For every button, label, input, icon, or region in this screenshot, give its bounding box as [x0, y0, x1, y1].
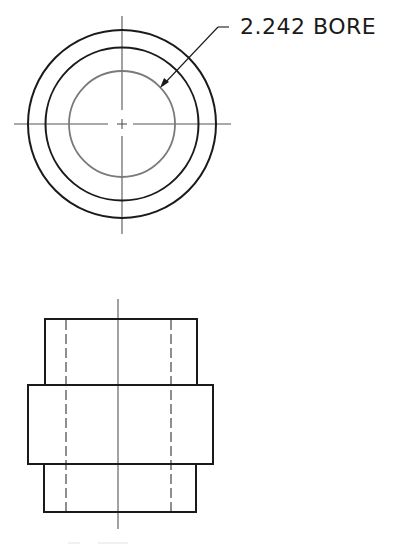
bore-leader — [163, 27, 229, 85]
front-view — [28, 299, 213, 529]
top-view — [14, 16, 231, 234]
body-upper-outline — [45, 319, 197, 385]
body-lower-outline — [44, 464, 196, 512]
technical-drawing — [0, 0, 402, 547]
bore-dimension-label: 2.242 BORE — [240, 14, 376, 40]
flange-outline — [28, 385, 213, 464]
